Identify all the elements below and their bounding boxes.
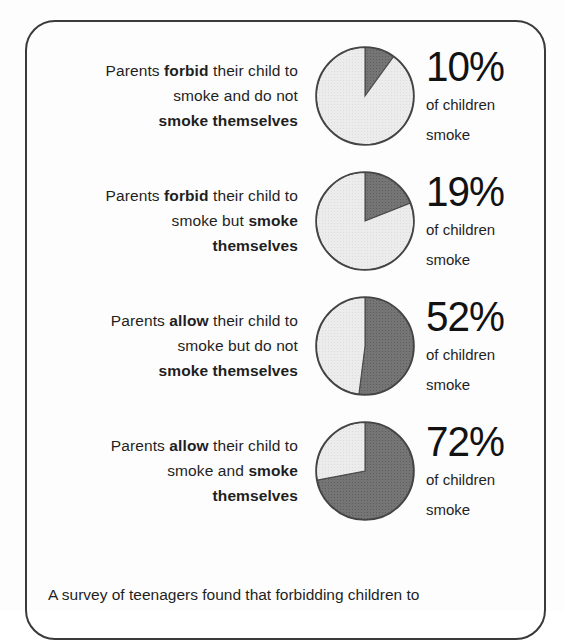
pie-svg-0	[313, 44, 417, 148]
pie-chart-2	[310, 294, 420, 398]
data-row: Parents forbid their child tosmoke and d…	[25, 33, 546, 158]
pie-svg-1	[313, 169, 417, 273]
row-label-2: Parents allow their child tosmoke but do…	[25, 308, 310, 383]
percent-value-3: 72%	[426, 419, 537, 463]
percent-sub1-2: of children	[426, 342, 544, 368]
pie-slice	[359, 297, 414, 394]
row-label-0: Parents forbid their child tosmoke and d…	[25, 58, 310, 133]
percent-value-1: 19%	[426, 169, 537, 213]
caption-text: A survey of teenagers found that forbidd…	[48, 583, 528, 607]
pie-chart-0	[310, 44, 420, 148]
data-row: Parents allow their child tosmoke but do…	[25, 283, 546, 408]
pie-slice	[317, 47, 414, 144]
pie-chart-1	[310, 169, 420, 273]
data-row: Parents forbid their child tosmoke but s…	[25, 158, 546, 283]
pie-slice	[317, 422, 366, 480]
percent-sub2-1: smoke	[426, 247, 544, 273]
pie-svg-3	[313, 419, 417, 523]
row-label-1: Parents forbid their child tosmoke but s…	[25, 183, 310, 258]
percent-sub2-2: smoke	[426, 372, 544, 398]
pie-row-list: Parents forbid their child tosmoke and d…	[25, 20, 546, 611]
percent-block-0: 10% of children smoke	[420, 44, 544, 148]
percent-sub2-0: smoke	[426, 122, 544, 148]
percent-sub1-1: of children	[426, 217, 544, 243]
row-label-3: Parents allow their child tosmoke and sm…	[25, 433, 310, 508]
percent-block-3: 72% of children smoke	[420, 419, 544, 523]
pie-chart-3	[310, 419, 420, 523]
pie-svg-2	[313, 294, 417, 398]
percent-value-2: 52%	[426, 294, 537, 338]
percent-block-2: 52% of children smoke	[420, 294, 544, 398]
percent-sub1-0: of children	[426, 92, 544, 118]
percent-sub2-3: smoke	[426, 497, 544, 523]
data-row: Parents allow their child tosmoke and sm…	[25, 408, 546, 533]
percent-sub1-3: of children	[426, 467, 544, 493]
percent-value-0: 10%	[426, 44, 537, 88]
pie-slice	[316, 297, 365, 394]
percent-block-1: 19% of children smoke	[420, 169, 544, 273]
